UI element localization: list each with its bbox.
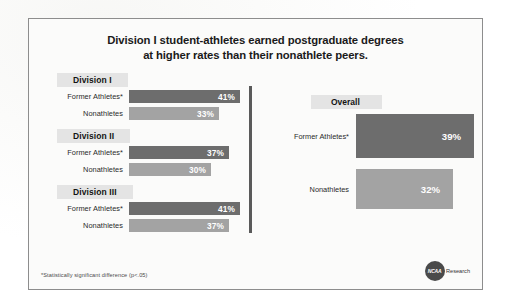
division-heading: Division II <box>57 129 130 143</box>
division-group: Division I Former Athletes* 41% Nonathle… <box>39 69 246 120</box>
bar-row: Nonathletes 30% <box>39 163 246 176</box>
panel-divider <box>249 86 252 233</box>
bar-row: Former Athletes* 39% <box>265 114 480 158</box>
bar-value: 41% <box>218 92 240 102</box>
title-line-1: Division I student-athletes earned postg… <box>29 33 482 48</box>
ncaa-logo-text: NCAA <box>428 268 442 274</box>
division-group: Division II Former Athletes* 37% Nonathl… <box>39 125 246 176</box>
bar-row: Nonathletes 33% <box>39 107 246 120</box>
bar-label: Former Athletes* <box>39 92 129 101</box>
footnote: *Statistically significant difference (p… <box>41 272 148 278</box>
bar-former-athletes: 41% <box>129 202 240 215</box>
bar-value: 30% <box>189 165 211 175</box>
division-heading: Division I <box>57 73 128 87</box>
bar-former-athletes: 37% <box>129 146 229 159</box>
division-group: Division III Former Athletes* 41% Nonath… <box>39 181 246 232</box>
bar-label: Nonathletes <box>39 109 129 118</box>
bar-label: Nonathletes <box>39 221 129 230</box>
bar-row: Nonathletes 32% <box>265 169 480 209</box>
bar-value: 39% <box>442 131 474 142</box>
bar-nonathletes: 30% <box>129 163 211 176</box>
bar-nonathletes: 32% <box>356 169 453 209</box>
division-panel: Division I Former Athletes* 41% Nonathle… <box>39 69 246 237</box>
bar-value: 32% <box>421 184 453 195</box>
title-line-2: at higher rates than their nonathlete pe… <box>29 48 482 63</box>
bar-label: Former Athletes* <box>265 132 356 141</box>
bar-former-athletes: 41% <box>129 90 240 103</box>
ncaa-logo-icon: NCAA <box>425 261 445 281</box>
chart-frame: Division I student-athletes earned postg… <box>28 18 483 290</box>
bar-value: 41% <box>218 204 240 214</box>
bar-label: Former Athletes* <box>39 204 129 213</box>
bar-value: 33% <box>197 109 219 119</box>
bar-label: Former Athletes* <box>39 148 129 157</box>
bar-former-athletes: 39% <box>356 114 474 158</box>
bar-label: Nonathletes <box>265 185 356 194</box>
bar-nonathletes: 37% <box>129 219 229 232</box>
bar-row: Nonathletes 37% <box>39 219 246 232</box>
research-label: Research <box>446 268 470 274</box>
bar-value: 37% <box>207 221 229 231</box>
bar-row: Former Athletes* 41% <box>39 90 246 103</box>
overall-heading: Overall <box>311 95 382 109</box>
bar-label: Nonathletes <box>39 165 129 174</box>
overall-panel: Overall Former Athletes* 39% Nonathletes… <box>265 91 480 220</box>
division-heading: Division III <box>57 185 133 199</box>
bar-nonathletes: 33% <box>129 107 219 120</box>
bar-row: Former Athletes* 41% <box>39 202 246 215</box>
bar-value: 37% <box>207 148 229 158</box>
bar-row: Former Athletes* 37% <box>39 146 246 159</box>
ncaa-research-logo: NCAA Research <box>425 261 470 281</box>
page-title: Division I student-athletes earned postg… <box>29 33 482 62</box>
